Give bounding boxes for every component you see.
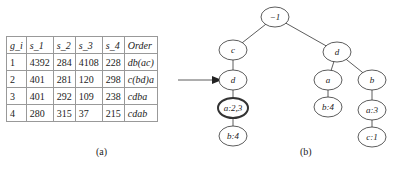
node-a23: a:2,3 [224,103,243,113]
node-a: a [326,75,331,85]
node-a3: a:3 [366,105,378,115]
node-b: b [370,75,375,85]
node-b4-right: b:4 [322,102,334,112]
node-c: c [231,45,235,55]
node-c1: c:1 [366,132,378,142]
node-d-right: d [335,47,340,57]
node-d-left: d [231,75,236,85]
tree-diagram: −1 c d a:2,3 b:4 d a b b:4 a:3 c:1 [0,0,399,171]
node-b4-left: b:4 [227,131,239,141]
node-root: −1 [270,12,281,22]
